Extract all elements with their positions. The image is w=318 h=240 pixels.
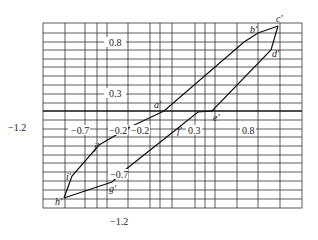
point-label-f: f′ — [177, 125, 183, 136]
diagram-canvas: 0.8 0.3 −1.2 −0.7 −0.2 −0.2 0.3 0.8 −0.7… — [0, 0, 318, 240]
y-label-0-8: 0.8 — [109, 37, 122, 48]
x-label-neg-0-7: −0.7 — [71, 125, 89, 136]
y-label-0-3: 0.3 — [109, 88, 122, 99]
y-label-neg-0-7: −0.7 — [110, 169, 128, 180]
x-label-0-3: 0.3 — [188, 125, 201, 136]
axis-labels: 0.8 0.3 −1.2 −0.7 −0.2 −0.2 0.3 0.8 −0.7… — [8, 37, 256, 227]
point-label-h: h′ — [55, 196, 63, 207]
point-label-c: c′ — [276, 13, 283, 24]
point-label-e: e′ — [213, 112, 220, 123]
y-label-neg-1-2: −1.2 — [110, 216, 128, 227]
grid — [43, 23, 302, 208]
point-label-d: d′ — [272, 48, 280, 59]
x-label-0-2: −0.2 — [131, 125, 149, 136]
point-label-i: i′ — [66, 171, 72, 182]
point-label-a: a′ — [154, 99, 162, 110]
point-label-j: j′ — [92, 141, 100, 152]
x-label-0-8: 0.8 — [242, 125, 255, 136]
x-label-neg-0-2: −0.2 — [109, 125, 127, 136]
hysteresis-diagram: 0.8 0.3 −1.2 −0.7 −0.2 −0.2 0.3 0.8 −0.7… — [0, 0, 318, 240]
point-label-b: b′ — [250, 24, 258, 35]
x-label-neg-1-2: −1.2 — [8, 122, 26, 133]
point-label-g: g′ — [109, 183, 117, 194]
